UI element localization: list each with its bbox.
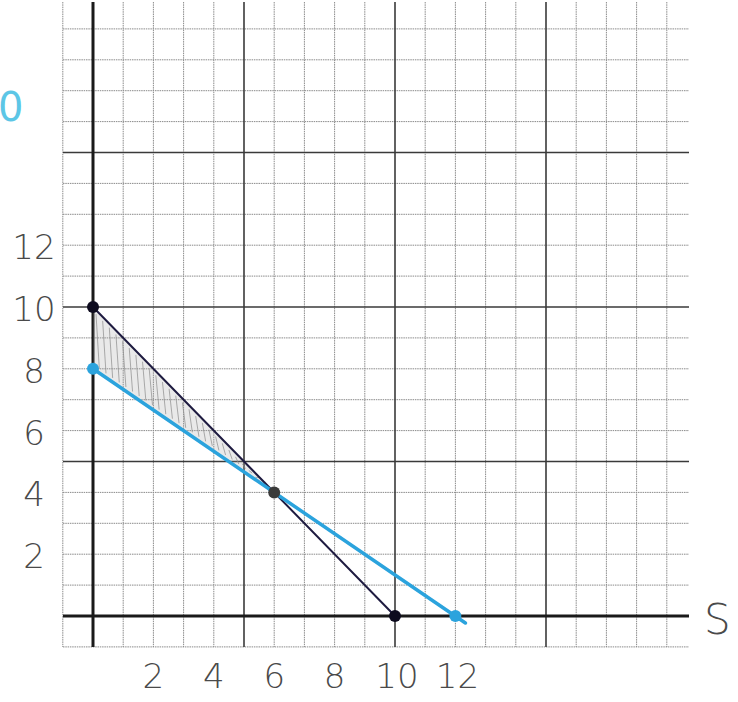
y-tick-label: 6: [23, 413, 45, 453]
point-marker: [268, 486, 280, 498]
x-tick-label: 8: [324, 656, 346, 696]
y-tick-label: 2: [23, 536, 45, 576]
axes: [63, 2, 689, 647]
point-marker: [87, 301, 99, 313]
x-tick-label: 10: [375, 656, 418, 696]
grid-minor-lines: [63, 2, 689, 647]
x-tick-label: 6: [263, 656, 285, 696]
partial-axis-label: 0: [0, 84, 23, 130]
grid-major-lines: [63, 2, 689, 647]
linear-constraints-graph: 24681012 24681012 S 0: [0, 0, 738, 702]
point-marker: [449, 610, 461, 622]
constraint-lines: [93, 307, 465, 623]
x-tick-label: 2: [143, 656, 165, 696]
y-tick-label: 8: [23, 351, 45, 391]
y-tick-label: 4: [23, 474, 45, 514]
x-tick-labels: 24681012: [143, 656, 479, 696]
y-tick-label: 10: [12, 289, 55, 329]
x-tick-label: 4: [203, 656, 225, 696]
y-tick-label: 12: [12, 227, 55, 267]
x-tick-label: 12: [436, 656, 479, 696]
x-axis-label: S: [704, 595, 731, 644]
y-tick-labels: 24681012: [12, 227, 55, 576]
point-marker: [389, 610, 401, 622]
point-marker: [87, 363, 99, 375]
